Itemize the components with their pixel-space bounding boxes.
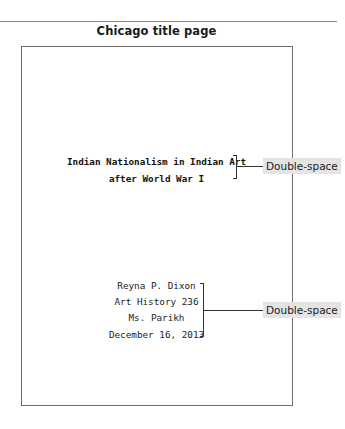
course-name: Art History 236	[21, 296, 292, 307]
title-page-sample	[21, 46, 293, 406]
paper-title-line-2: after World War I	[21, 173, 292, 184]
title-bracket	[233, 155, 237, 179]
author-connector-line	[204, 310, 263, 311]
instructor-name: Ms. Parikh	[21, 312, 292, 323]
author-double-space-label: Double-space	[263, 302, 341, 318]
submission-date: December 16, 2013	[21, 329, 292, 340]
author-name: Reyna P. Dixon	[21, 280, 292, 291]
figure-heading: Chicago title page	[0, 24, 313, 38]
title-double-space-label: Double-space	[263, 158, 341, 174]
top-divider	[0, 21, 337, 22]
title-connector-line	[237, 166, 263, 167]
